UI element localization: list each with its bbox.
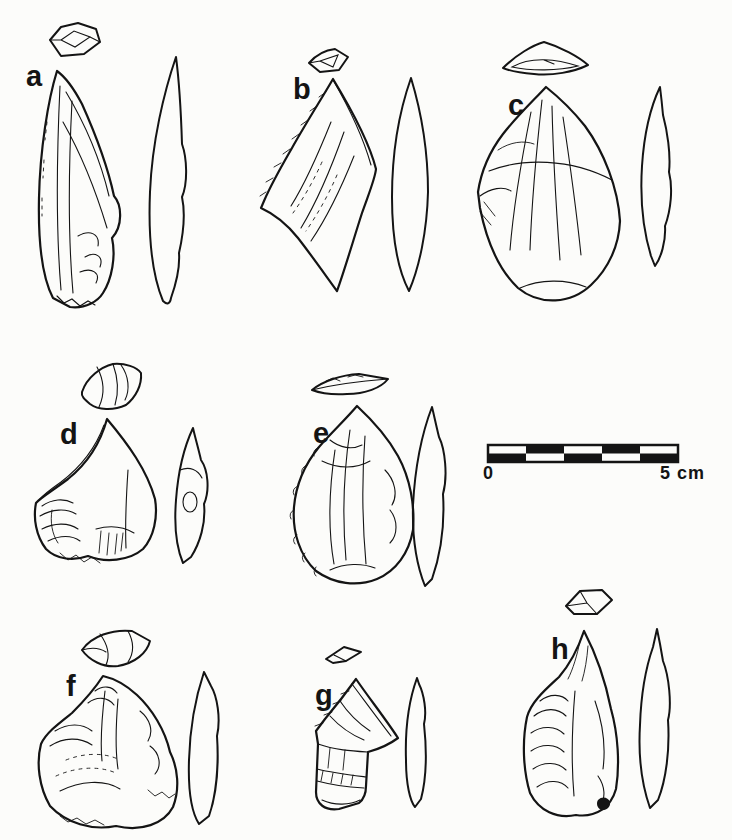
- specimen-c-profile: [641, 87, 671, 266]
- specimen-c-face: [478, 87, 620, 300]
- scale-bar-start-label: 0: [483, 464, 494, 482]
- specimen-d-face: [35, 419, 156, 563]
- specimen-label-g: g: [315, 681, 333, 710]
- specimen-label-e: e: [313, 419, 329, 448]
- specimen-g-profile: [406, 678, 426, 807]
- specimen-e-cross-section: [312, 374, 388, 394]
- scale-bar-end-label: 5 cm: [660, 464, 705, 482]
- specimen-a-drawing: [39, 23, 186, 307]
- specimen-label-c: c: [508, 91, 524, 120]
- figure-plate: a b c d e f g h 0 5 cm: [0, 0, 732, 840]
- specimen-label-d: d: [60, 420, 78, 449]
- specimen-h-cross-section: [566, 590, 612, 614]
- specimen-b-profile: [392, 78, 428, 291]
- specimen-d-cross-section: [82, 364, 141, 409]
- specimen-e-drawing: [290, 374, 446, 586]
- specimen-d-profile: [175, 428, 207, 563]
- specimen-f-cross-section: [82, 631, 150, 667]
- specimen-b-drawing: [260, 49, 428, 291]
- specimen-c-cross-section: [503, 42, 588, 75]
- specimen-d-drawing: [35, 364, 208, 563]
- specimen-f-drawing: [39, 631, 219, 828]
- scale-bar-checkerboard: [488, 445, 678, 462]
- specimen-a-face: [39, 71, 120, 307]
- specimen-f-profile: [189, 672, 219, 824]
- specimen-c-drawing: [478, 42, 671, 300]
- specimen-g-cross-section: [326, 647, 361, 663]
- specimen-a-profile: [150, 57, 187, 303]
- specimen-label-b: b: [293, 75, 311, 104]
- specimen-label-h: h: [551, 635, 569, 664]
- specimen-label-f: f: [66, 672, 76, 701]
- specimen-b-face: [260, 79, 376, 291]
- specimen-label-a: a: [26, 62, 42, 91]
- specimen-b-cross-section: [309, 49, 348, 72]
- specimen-h-drawing: [524, 590, 670, 816]
- lithic-artifact-drawings: [0, 0, 732, 840]
- specimen-g-drawing: [315, 647, 426, 809]
- specimen-e-profile: [413, 407, 446, 586]
- specimen-h-profile: [640, 629, 670, 808]
- specimen-h-face: [524, 631, 618, 816]
- specimen-f-face: [39, 676, 178, 828]
- specimen-e-face: [290, 406, 413, 583]
- specimen-a-cross-section: [50, 23, 100, 56]
